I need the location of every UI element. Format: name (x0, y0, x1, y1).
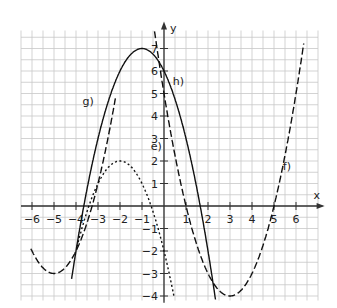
x-tick-label: 6 (293, 213, 300, 226)
y-tick-label: −3 (142, 268, 158, 281)
y-tick-label: 4 (151, 110, 158, 123)
x-axis-label: x (314, 189, 321, 202)
y-tick-label: −1 (142, 223, 158, 236)
curve-label: f) (283, 160, 291, 173)
y-tick-label: 5 (151, 88, 158, 101)
x-tick-label: −3 (90, 213, 106, 226)
y-tick-label: −2 (142, 245, 158, 258)
y-tick-label: 1 (151, 178, 158, 191)
curve-label: h) (173, 75, 184, 88)
axes: xy−6−5−4−3−2−1123456−4−3−2−11234567 (21, 22, 325, 304)
y-tick-label: 2 (151, 155, 158, 168)
x-axis-arrow-icon (317, 203, 325, 209)
y-tick-label: 6 (151, 65, 158, 78)
grid (21, 31, 318, 301)
function-graph: xy−6−5−4−3−2−1123456−4−3−2−11234567e)g)h… (0, 0, 337, 308)
y-tick-label: −4 (142, 290, 158, 303)
y-axis-label: y (170, 22, 177, 35)
x-tick-label: −5 (46, 213, 62, 226)
curve-label: e) (151, 140, 162, 153)
x-tick-label: −6 (24, 213, 40, 226)
x-tick-label: −2 (112, 213, 128, 226)
x-tick-label: 4 (249, 213, 256, 226)
curve-h (31, 98, 116, 273)
y-axis-arrow-icon (161, 22, 167, 30)
x-tick-label: 3 (227, 213, 234, 226)
curve-label: g) (83, 95, 94, 108)
x-tick-label: 2 (205, 213, 212, 226)
